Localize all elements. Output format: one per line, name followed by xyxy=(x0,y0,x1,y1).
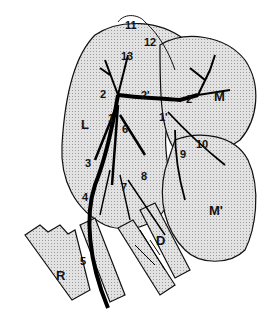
label-11: 11 xyxy=(125,20,137,31)
label-3: 3 xyxy=(85,158,91,169)
label-5: 5 xyxy=(80,256,86,267)
label-Mprime: M' xyxy=(209,204,223,217)
label-1prime: 1' xyxy=(159,112,168,123)
label-8: 8 xyxy=(141,171,147,182)
label-7: 7 xyxy=(121,182,127,193)
label-D: D xyxy=(156,234,165,247)
label-9: 9 xyxy=(180,149,186,160)
label-6: 6 xyxy=(122,124,128,135)
label-10: 10 xyxy=(196,139,208,150)
label-M: M xyxy=(214,90,225,103)
label-4: 4 xyxy=(82,192,88,203)
label-2a: 2 xyxy=(100,89,106,100)
label-1: 1 xyxy=(108,113,114,124)
label-R: R xyxy=(56,269,65,282)
label-2b: 2 xyxy=(186,94,192,105)
label-2prime: 2' xyxy=(141,90,150,101)
label-L: L xyxy=(81,118,89,131)
label-13: 13 xyxy=(121,51,133,62)
label-12: 12 xyxy=(144,37,156,48)
